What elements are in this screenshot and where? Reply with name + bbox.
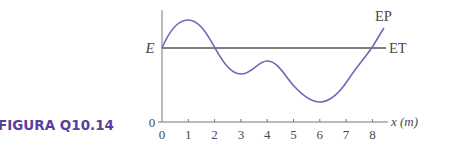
- ep-label: EP: [375, 8, 392, 24]
- et-label: ET: [389, 40, 407, 56]
- svg-text:7: 7: [343, 127, 350, 142]
- svg-text:3: 3: [238, 127, 245, 142]
- svg-text:2: 2: [211, 127, 218, 142]
- x-tick-labels: 0 1 2 3 4 5 6 7 8: [159, 127, 376, 142]
- svg-text:5: 5: [290, 127, 297, 142]
- svg-text:8: 8: [369, 127, 376, 142]
- potential-energy-curve: [162, 20, 384, 102]
- svg-text:6: 6: [317, 127, 324, 142]
- energy-E-label: E: [144, 40, 154, 56]
- svg-text:4: 4: [264, 127, 271, 142]
- svg-text:0: 0: [159, 127, 166, 142]
- y-zero-label: 0: [149, 115, 156, 130]
- figure: FIGURA Q10.14 0 1 2 3 4 5 6 7 8: [0, 0, 452, 155]
- x-axis-label: x (m): [390, 114, 418, 129]
- svg-text:1: 1: [185, 127, 192, 142]
- figure-caption: FIGURA Q10.14: [0, 117, 114, 133]
